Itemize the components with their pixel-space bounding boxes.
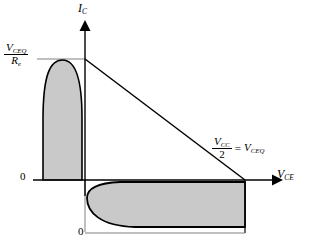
origin-label-lower: 0 — [78, 226, 84, 237]
y-intercept-fraction: VCEQ Re — [4, 42, 28, 68]
x-axis-label-sub: CE — [284, 173, 294, 182]
x-intercept-rhs-main: V — [244, 141, 251, 153]
x-intercept-label: VCC 2 =VCEQ — [212, 136, 264, 160]
x-intercept-numerator-main: V — [214, 135, 221, 147]
y-intercept-denominator: Re — [4, 54, 28, 67]
y-intercept-numerator: VCEQ — [4, 42, 28, 54]
y-axis-arrow — [80, 20, 91, 31]
y-intercept-denominator-sub: e — [18, 60, 21, 67]
x-intercept-numerator: VCC — [212, 136, 232, 148]
x-intercept-denominator: 2 — [212, 148, 232, 160]
collector-current-waveform — [43, 60, 82, 180]
load-line-figure: IC VCE VCEQ Re VCC 2 =VCEQ 0 0 — [0, 0, 311, 250]
y-intercept-label: VCEQ Re — [4, 42, 28, 68]
x-intercept-equals: = — [232, 142, 244, 154]
x-axis-label: VCE — [277, 168, 294, 181]
figure-canvas — [0, 0, 311, 250]
y-axis-label-sub: C — [82, 7, 87, 16]
x-intercept-rhs: VCEQ — [244, 141, 264, 153]
collector-voltage-waveform — [87, 182, 245, 227]
y-axis-label: IC — [78, 2, 87, 15]
x-intercept-numerator-sub: CC — [221, 141, 230, 148]
x-intercept-rhs-sub: CEQ — [251, 147, 265, 154]
dc-load-line — [85, 59, 245, 180]
y-intercept-numerator-main: V — [6, 41, 13, 53]
x-intercept-fraction: VCC 2 — [212, 136, 232, 160]
origin-label-upper: 0 — [20, 171, 26, 182]
y-intercept-numerator-sub: CEQ — [13, 47, 27, 54]
